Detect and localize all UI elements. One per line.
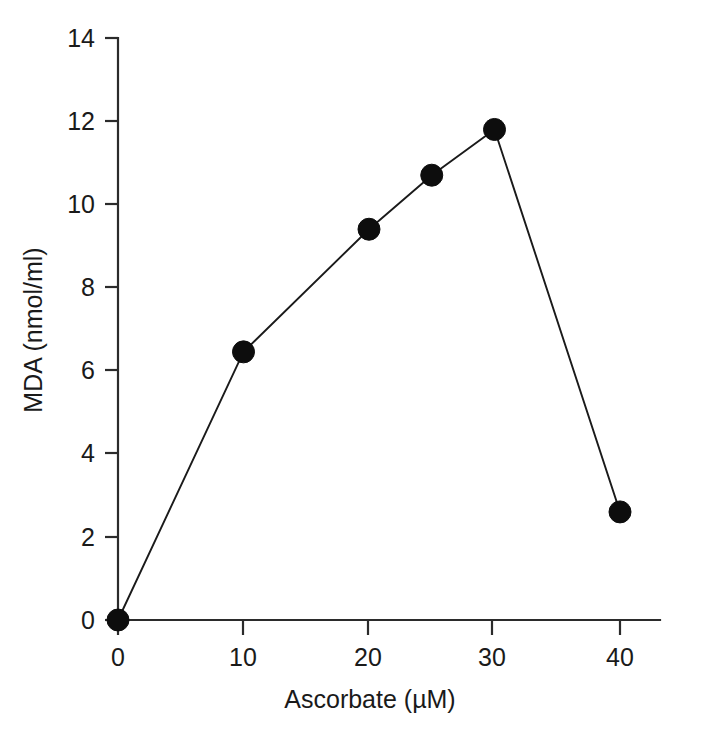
- data-point-marker: [233, 341, 255, 363]
- x-axis-title: Ascorbate (µM): [284, 685, 455, 713]
- y-tick-label-0: 0: [81, 606, 95, 634]
- data-point-marker: [484, 118, 506, 140]
- chart-figure: 14 12 10 8 6 4 2 0 0 10 20 30 40 Ascorba…: [0, 0, 707, 734]
- y-tick-label-12: 12: [67, 107, 95, 135]
- y-tick-label-10: 10: [67, 190, 95, 218]
- data-point-marker: [358, 218, 380, 240]
- y-tick-label-4: 4: [81, 439, 95, 467]
- y-tick-label-2: 2: [81, 523, 95, 551]
- y-tick-label-8: 8: [81, 273, 95, 301]
- data-point-marker: [609, 501, 631, 523]
- data-point-marker: [107, 609, 129, 631]
- x-tick-label-30: 30: [478, 643, 506, 671]
- x-tick-label-10: 10: [229, 643, 257, 671]
- data-point-marker: [421, 164, 443, 186]
- y-tick-label-14: 14: [67, 24, 95, 52]
- y-axis-title: MDA (nmol/ml): [19, 247, 47, 412]
- chart-background: [0, 0, 707, 734]
- x-tick-label-40: 40: [606, 643, 634, 671]
- y-tick-label-6: 6: [81, 356, 95, 384]
- x-tick-label-0: 0: [111, 643, 125, 671]
- line-chart: 14 12 10 8 6 4 2 0 0 10 20 30 40 Ascorba…: [0, 0, 707, 734]
- x-tick-label-20: 20: [354, 643, 382, 671]
